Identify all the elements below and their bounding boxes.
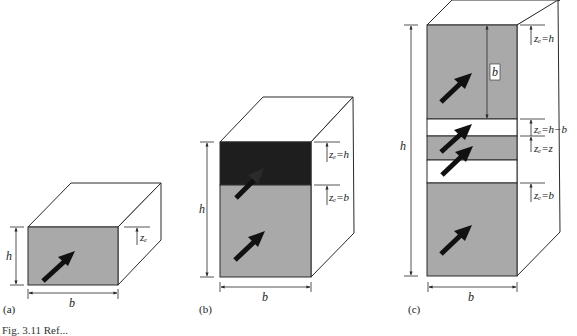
height-label: h bbox=[6, 249, 12, 263]
strip-white-lower bbox=[427, 160, 517, 183]
figure-caption: Fig. 3.11 Ref... bbox=[2, 324, 68, 336]
ze-label: zₑ=h bbox=[533, 32, 555, 44]
ze-label: zₑ=z bbox=[533, 142, 554, 154]
box-front-face bbox=[28, 227, 118, 285]
ze-label: zₑ=b bbox=[328, 191, 350, 203]
ze-label: zₑ=h bbox=[328, 148, 350, 160]
panel-label-b: (b) bbox=[199, 303, 212, 316]
width-label: b bbox=[468, 290, 474, 304]
width-label: b bbox=[69, 296, 75, 310]
upper-zone-dark bbox=[220, 142, 311, 185]
panel-a: h b zₑ (a) bbox=[3, 183, 161, 316]
ze-label: zₑ=b bbox=[533, 189, 555, 201]
lower-zone-gray bbox=[220, 185, 311, 277]
panel-label-c: (c) bbox=[408, 303, 421, 316]
ze-label: zₑ bbox=[139, 231, 147, 243]
inner-width-label: b bbox=[492, 65, 498, 79]
panel-b: h b zₑ=h zₑ=b (b) bbox=[199, 97, 354, 316]
panel-label-a: (a) bbox=[3, 303, 16, 316]
panel-c: b h b zₑ=h zₑ=h−b zₑ=z zₑ=b (c) bbox=[400, 0, 568, 316]
width-label: b bbox=[262, 290, 268, 304]
top-zone-gray bbox=[427, 25, 517, 119]
height-label: h bbox=[199, 202, 205, 216]
ze-label: zₑ=h−b bbox=[533, 123, 568, 135]
height-label: h bbox=[400, 139, 406, 153]
bottom-zone-gray bbox=[427, 183, 517, 276]
strip-white-upper bbox=[427, 119, 517, 136]
